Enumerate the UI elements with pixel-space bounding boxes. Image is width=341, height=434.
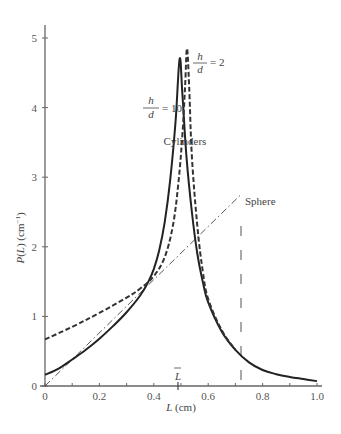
svg-text:= 2: = 2 [210, 56, 224, 68]
svg-text:= 10: = 10 [162, 102, 182, 114]
x-tick-label: 0.8 [256, 390, 270, 402]
mean-length-marker: L [174, 368, 181, 390]
y-tick-label: 2 [32, 241, 38, 253]
y-tick-label: 1 [32, 310, 38, 322]
y-tick-label: 4 [32, 102, 38, 114]
chart: 00.20.40.60.81.0 012345 L (cm) P(L) (cm−… [0, 0, 341, 434]
annotation-sphere: Sphere [245, 195, 276, 207]
svg-text:d: d [148, 108, 154, 120]
x-tick-label: 0 [42, 390, 48, 402]
svg-text:h: h [148, 94, 154, 106]
svg-text:L: L [174, 370, 181, 382]
x-tick-label: 0.4 [147, 390, 161, 402]
svg-text:h: h [197, 50, 203, 62]
y-tick-label: 0 [32, 380, 38, 392]
x-axis-title: L (cm) [165, 401, 196, 414]
y-axis-title: P(L) (cm−1) [14, 212, 27, 265]
x-tick-label: 0.6 [201, 390, 215, 402]
x-tick-label: 0.2 [93, 390, 107, 402]
y-tick-label: 3 [32, 171, 38, 183]
x-tick-label: 1.0 [310, 390, 324, 402]
cylinder-h-d-2-line [45, 48, 235, 349]
annotation-h-d-2: h d = 2 [193, 50, 224, 75]
annotation-cylinders: Cylinders [164, 135, 207, 147]
y-tick-label: 5 [32, 32, 38, 44]
svg-text:d: d [197, 63, 203, 75]
